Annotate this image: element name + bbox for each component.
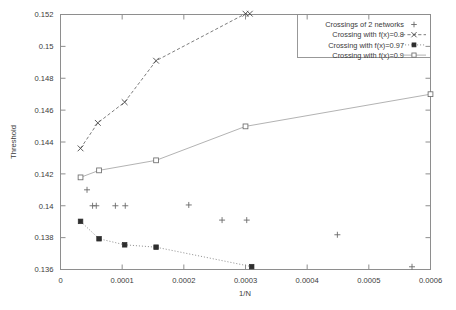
- open-square-marker: [412, 53, 416, 57]
- x-tick-label: 0.0003: [234, 276, 257, 285]
- x-axis-tick-labels: 00.00010.00020.00030.00040.00050.0006: [58, 276, 442, 285]
- chart-figure: 00.00010.00020.00030.00040.00050.0006 0.…: [0, 0, 456, 310]
- filled-square-marker: [154, 245, 159, 250]
- open-square-marker: [97, 168, 102, 173]
- series-line: [81, 221, 252, 266]
- filled-square-marker: [97, 236, 102, 241]
- y-axis-title: Threshold: [9, 125, 18, 159]
- series-crossing-with-f-x-0-9: [78, 92, 433, 180]
- data-series-layer: [78, 11, 433, 270]
- x-tick-label: 0.0001: [111, 276, 134, 285]
- filled-square-marker: [412, 43, 416, 47]
- series-line: [81, 94, 431, 177]
- y-tick-label: 0.152: [34, 10, 53, 19]
- legend-label-3: Crossing with f(x)=0.9: [332, 51, 404, 60]
- series-crossing-with-f-x-0-97: [78, 219, 254, 269]
- x-tick-label: 0: [58, 276, 62, 285]
- series-line: [81, 14, 250, 149]
- open-square-marker: [243, 124, 248, 129]
- filled-square-marker: [78, 219, 83, 224]
- filled-square-marker: [249, 264, 254, 269]
- y-tick-label: 0.15: [39, 42, 54, 51]
- y-axis-tick-labels: 0.1360.1380.140.1420.1440.1460.1480.150.…: [34, 10, 53, 274]
- x-tick-label: 0.0004: [296, 276, 319, 285]
- legend: Crossings of 2 networksCrossing with f(x…: [298, 15, 431, 60]
- series-crossings-of-2-networks: [84, 187, 415, 270]
- y-tick-label: 0.14: [39, 202, 54, 211]
- legend-entries: Crossings of 2 networksCrossing with f(x…: [325, 20, 426, 60]
- x-tick-label: 0.0002: [172, 276, 195, 285]
- y-tick-label: 0.142: [34, 170, 53, 179]
- x-axis-title: 1/N: [239, 289, 251, 298]
- y-tick-label: 0.138: [34, 233, 53, 242]
- open-square-marker: [78, 175, 83, 180]
- open-square-marker: [428, 92, 433, 97]
- legend-label-1: Crossing with f(x)=0.8: [332, 30, 404, 39]
- x-tick-label: 0.0006: [419, 276, 442, 285]
- series-crossing-with-f-x-0-8: [78, 11, 253, 151]
- plot-canvas: 00.00010.00020.00030.00040.00050.0006 0.…: [0, 0, 456, 310]
- filled-square-marker: [122, 242, 127, 247]
- x-tick-label: 0.0005: [357, 276, 380, 285]
- y-tick-label: 0.136: [34, 265, 53, 274]
- y-tick-label: 0.144: [34, 138, 53, 147]
- y-tick-label: 0.146: [34, 106, 53, 115]
- legend-label-0: Crossings of 2 networks: [325, 20, 404, 29]
- legend-label-2: Crossing with f(x)=0.97: [328, 41, 404, 50]
- y-tick-label: 0.148: [34, 74, 53, 83]
- open-square-marker: [154, 158, 159, 163]
